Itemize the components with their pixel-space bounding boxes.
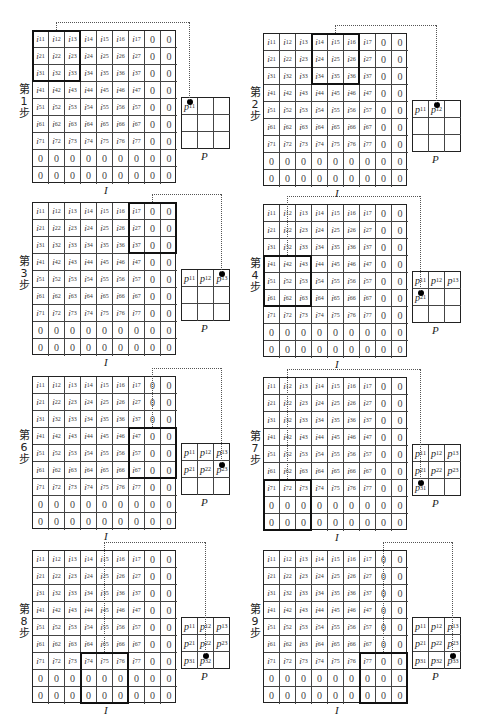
matrix-cell-i73: i73 (65, 133, 81, 150)
matrix-label-I: I (104, 704, 108, 716)
matrix-cell-i55: i55 (97, 99, 113, 116)
padding-zero-cell: 0 (328, 341, 344, 358)
matrix-cell-i12: i12 (49, 203, 65, 220)
matrix-cell-i13: i13 (296, 551, 312, 568)
padding-zero-cell: 0 (392, 102, 408, 119)
pool-cell-p33 (214, 304, 230, 321)
matrix-cell-i31: i31 (264, 585, 280, 602)
padding-zero-cell: 0 (392, 687, 408, 704)
matrix-cell-i33: i33 (296, 68, 312, 85)
padding-zero-cell: 0 (161, 31, 177, 48)
padding-zero-cell: 0 (376, 205, 392, 222)
matrix-cell-i41: i41 (33, 82, 49, 99)
matrix-cell-i57: i57 (360, 273, 376, 290)
pool-cell-p23: p23 (445, 635, 461, 652)
matrix-cell-i75: i75 (328, 136, 344, 153)
padding-zero-cell: 0 (376, 378, 392, 395)
padding-zero-cell: 0 (33, 670, 49, 687)
matrix-cell-i61: i61 (33, 462, 49, 479)
matrix-cell-i36: i36 (113, 585, 129, 602)
matrix-cell-i16: i16 (113, 551, 129, 568)
pool-cell-p21 (182, 115, 198, 132)
matrix-cell-i63: i63 (65, 116, 81, 133)
matrix-cell-i63: i63 (65, 636, 81, 653)
padding-zero-cell: 0 (145, 288, 161, 305)
pool-cell-p31 (182, 304, 198, 321)
matrix-cell-i14: i14 (81, 203, 97, 220)
padding-zero-cell: 0 (129, 167, 145, 184)
matrix-cell-i43: i43 (296, 85, 312, 102)
padding-zero-cell: 0 (392, 51, 408, 68)
matrix-cell-i64: i64 (81, 462, 97, 479)
matrix-cell-i44: i44 (81, 428, 97, 445)
connector-line (420, 369, 421, 481)
matrix-cell-i74: i74 (312, 307, 328, 324)
matrix-cell-i11: i11 (264, 378, 280, 395)
padding-zero-cell: 0 (97, 150, 113, 167)
matrix-cell-i22: i22 (280, 222, 296, 239)
matrix-cell-i22: i22 (280, 395, 296, 412)
matrix-cell-i46: i46 (344, 85, 360, 102)
padding-zero-cell: 0 (81, 513, 97, 530)
matrix-cell-i66: i66 (344, 119, 360, 136)
input-matrix-I: i11i12i13i14i15i16i1700i21i22i23i24i25i2… (32, 376, 176, 529)
padding-zero-cell: 0 (113, 322, 129, 339)
padding-zero-cell: 0 (161, 48, 177, 65)
matrix-cell-i17: i17 (360, 205, 376, 222)
padding-zero-cell: 0 (145, 220, 161, 237)
matrix-cell-i51: i51 (33, 99, 49, 116)
matrix-cell-i52: i52 (49, 619, 65, 636)
matrix-cell-i37: i37 (360, 68, 376, 85)
padding-zero-cell: 0 (376, 102, 392, 119)
matrix-cell-i56: i56 (344, 273, 360, 290)
matrix-cell-i53: i53 (65, 445, 81, 462)
padding-zero-cell: 0 (161, 99, 177, 116)
matrix-cell-i12: i12 (49, 551, 65, 568)
matrix-cell-i15: i15 (328, 378, 344, 395)
connector-line (104, 542, 205, 543)
matrix-cell-i17: i17 (129, 203, 145, 220)
matrix-cell-i47: i47 (360, 602, 376, 619)
matrix-cell-i61: i61 (264, 290, 280, 307)
padding-zero-cell: 0 (392, 378, 408, 395)
step-label: 第2步 (249, 87, 261, 123)
matrix-cell-i16: i16 (113, 203, 129, 220)
padding-zero-cell: 0 (344, 687, 360, 704)
padding-zero-cell: 0 (81, 150, 97, 167)
matrix-cell-i57: i57 (360, 102, 376, 119)
padding-zero-cell: 0 (161, 82, 177, 99)
matrix-cell-i61: i61 (33, 116, 49, 133)
matrix-cell-i72: i72 (49, 479, 65, 496)
padding-zero-cell: 0 (65, 670, 81, 687)
padding-zero-cell: 0 (296, 153, 312, 170)
matrix-cell-i26: i26 (344, 568, 360, 585)
padding-zero-cell: 0 (392, 34, 408, 51)
matrix-cell-i67: i67 (129, 462, 145, 479)
matrix-cell-i67: i67 (129, 288, 145, 305)
padding-zero-cell: 0 (33, 687, 49, 704)
connector-line (287, 369, 288, 479)
padding-zero-cell: 0 (392, 273, 408, 290)
matrix-cell-i42: i42 (49, 254, 65, 271)
padding-zero-cell: 0 (97, 339, 113, 356)
pool-cell-p22 (198, 287, 214, 304)
padding-zero-cell: 0 (376, 256, 392, 273)
matrix-cell-i15: i15 (97, 31, 113, 48)
padding-zero-cell: 0 (280, 341, 296, 358)
connector-line (205, 542, 206, 654)
matrix-cell-i26: i26 (113, 48, 129, 65)
matrix-cell-i14: i14 (312, 205, 328, 222)
matrix-cell-i47: i47 (360, 85, 376, 102)
padding-zero-cell: 0 (49, 322, 65, 339)
padding-zero-cell: 0 (328, 153, 344, 170)
padding-zero-cell: 0 (264, 341, 280, 358)
matrix-cell-i45: i45 (328, 256, 344, 273)
padding-zero-cell: 0 (344, 341, 360, 358)
padding-zero-cell: 0 (344, 670, 360, 687)
matrix-cell-i65: i65 (328, 119, 344, 136)
padding-zero-cell: 0 (376, 670, 392, 687)
matrix-cell-i34: i34 (81, 411, 97, 428)
matrix-cell-i11: i11 (33, 31, 49, 48)
padding-zero-cell: 0 (376, 568, 392, 585)
matrix-cell-i37: i37 (360, 585, 376, 602)
